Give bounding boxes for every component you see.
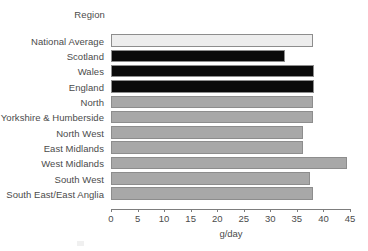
- bar-row: South West: [0, 171, 368, 186]
- tick-mark: [138, 209, 139, 212]
- bar-row-label: South West: [0, 173, 104, 184]
- bar-row-label: Wales: [0, 66, 104, 77]
- bar: [111, 141, 303, 154]
- bar-row-label: West Midlands: [0, 158, 104, 169]
- bar-row: West Midlands: [0, 156, 368, 171]
- bar: [111, 187, 313, 200]
- bar-row-label: North West: [0, 127, 104, 138]
- tick-mark: [191, 209, 192, 212]
- bar-row: North: [0, 94, 368, 109]
- tick-label: 35: [292, 213, 303, 224]
- tick-label: 25: [238, 213, 249, 224]
- bar-row: Scotland: [0, 48, 368, 63]
- bar: [111, 111, 313, 124]
- tick-label: 5: [135, 213, 140, 224]
- tick-mark: [270, 209, 271, 212]
- tick-mark: [217, 209, 218, 212]
- bar-row-label: Yorkshire & Humberside: [0, 112, 104, 123]
- bar-row-label: East Midlands: [0, 142, 104, 153]
- tick-mark: [244, 209, 245, 212]
- tick-label: 40: [318, 213, 329, 224]
- bar-row: Yorkshire & Humberside: [0, 110, 368, 125]
- bar: [111, 96, 313, 109]
- tick-label: 20: [212, 213, 223, 224]
- bar-chart: Region National AverageScotlandWalesEngl…: [0, 0, 368, 251]
- bar: [111, 50, 285, 63]
- bar: [111, 172, 310, 185]
- bar-row-label: South East/East Anglia: [0, 188, 104, 199]
- bar: [111, 80, 314, 93]
- bar: [111, 34, 313, 47]
- plot-area: Region National AverageScotlandWalesEngl…: [0, 0, 368, 251]
- bar-row: National Average: [0, 33, 368, 48]
- tick-mark: [350, 209, 351, 212]
- tick-label: 30: [265, 213, 276, 224]
- bar-row: Wales: [0, 64, 368, 79]
- bar-row: England: [0, 79, 368, 94]
- x-axis-title: g/day: [111, 228, 351, 239]
- bar-row: South East/East Anglia: [0, 186, 368, 201]
- tick-label: 15: [185, 213, 196, 224]
- tick-label: 45: [345, 213, 356, 224]
- bar: [111, 126, 303, 139]
- tick-mark: [164, 209, 165, 212]
- bar-row: East Midlands: [0, 140, 368, 155]
- scan-artifact: [77, 241, 84, 246]
- bar-row-label: National Average: [0, 35, 104, 46]
- bar: [111, 157, 347, 170]
- bar-row-label: North: [0, 96, 104, 107]
- bar: [111, 65, 314, 78]
- tick-mark: [297, 209, 298, 212]
- bar-row: North West: [0, 125, 368, 140]
- legend-title: Region: [0, 9, 105, 20]
- bar-row-label: Scotland: [0, 50, 104, 61]
- tick-mark: [111, 209, 112, 212]
- bar-row-label: England: [0, 81, 104, 92]
- x-axis-line: [111, 209, 351, 210]
- tick-label: 10: [159, 213, 170, 224]
- tick-mark: [323, 209, 324, 212]
- tick-label: 0: [108, 213, 113, 224]
